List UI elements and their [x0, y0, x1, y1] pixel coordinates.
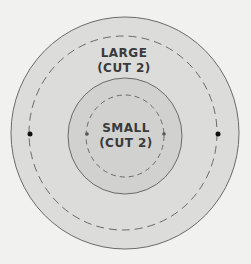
- large-label: LARGE: [101, 46, 148, 60]
- small-right-dot: [162, 132, 166, 136]
- large-right-dot: [216, 132, 221, 137]
- large-left-dot: [28, 132, 33, 137]
- small-label: SMALL: [102, 121, 150, 135]
- small-cut-note: (CUT 2): [99, 136, 153, 150]
- circle-pattern-diagram: LARGE (CUT 2) SMALL (CUT 2): [0, 0, 251, 264]
- small-left-dot: [85, 132, 89, 136]
- large-cut-note: (CUT 2): [97, 61, 151, 75]
